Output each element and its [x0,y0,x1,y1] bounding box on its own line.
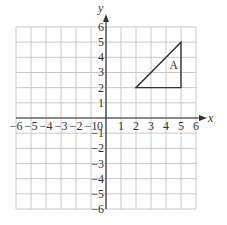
y-tick-label: 4 [98,50,104,64]
y-tick-label: −4 [91,172,104,186]
x-tick-label: 3 [148,119,154,133]
coordinate-plane: −6−5−4−3−2−10123456654321−1−2−3−4−5−6 A … [0,0,227,225]
x-tick-label: 4 [163,119,169,133]
y-tick-label: −6 [91,202,104,216]
y-tick-label: −5 [91,187,104,201]
x-tick-label: −6 [10,119,23,133]
y-tick-label: 1 [98,96,104,110]
y-tick-label: 2 [98,81,104,95]
x-tick-label: 5 [178,119,184,133]
triangle-a: A [136,42,181,88]
y-tick-label: −2 [91,141,104,155]
y-tick-label: 5 [98,35,104,49]
x-tick-label: −3 [55,119,68,133]
y-tick-label: 3 [98,65,104,79]
y-tick-label: −1 [91,126,104,140]
x-tick-label: 6 [193,119,199,133]
triangle-label: A [169,58,178,72]
axes [16,14,207,209]
x-tick-label: 2 [133,119,139,133]
y-tick-label: 6 [98,20,104,34]
y-tick-label: −3 [91,157,104,171]
coordinate-grid-figure: −6−5−4−3−2−10123456654321−1−2−3−4−5−6 A … [0,0,227,225]
x-tick-label: 1 [118,119,124,133]
x-axis-arrow-icon [199,115,207,121]
x-tick-label: −2 [70,119,83,133]
y-axis-label: y [97,1,104,15]
x-axis-label: x [207,111,214,125]
x-tick-label: −5 [25,119,38,133]
x-tick-label: −4 [40,119,53,133]
